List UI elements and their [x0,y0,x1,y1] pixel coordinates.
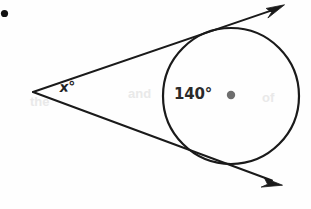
arc-measure-label: 140° [174,85,212,103]
tangent-line-lower [33,92,283,187]
angle-label-x: x° [59,78,76,95]
circle-center-dot [227,91,235,99]
figure-canvas [0,0,311,209]
arrowhead-lower-icon [261,178,282,187]
geometry-figure: and the of x° 140° [0,0,311,209]
item-bullet-icon [1,10,8,17]
